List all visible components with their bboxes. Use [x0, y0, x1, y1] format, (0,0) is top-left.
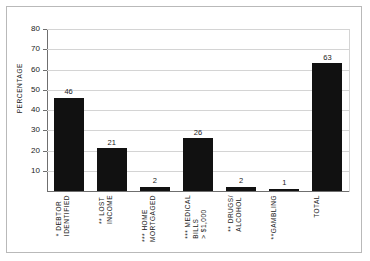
x-axis-category-label: ** DRUGS/ ALCOHOL [227, 195, 243, 232]
y-tick-label: 70 [31, 45, 40, 53]
bar[interactable]: 46 [54, 98, 84, 191]
bar-value-label: 1 [282, 179, 286, 187]
x-axis-line [47, 191, 350, 192]
x-axis-category-label: * DEBTOR IDENTIFIED [55, 195, 71, 236]
y-tick-label: 50 [31, 86, 40, 94]
chart-frame: PERCENTAGE 8070605040302010 46212262163 … [6, 6, 362, 253]
y-tick-label: 10 [31, 167, 40, 175]
bar-value-label: 2 [239, 177, 243, 185]
bar[interactable]: 2 [140, 187, 170, 191]
bar-value-label: 46 [64, 88, 72, 96]
gridline [47, 29, 349, 30]
y-tick-mark [43, 29, 47, 30]
y-tick-label: 60 [31, 66, 40, 74]
plot-area: 8070605040302010 46212262163 [47, 29, 349, 191]
gridline [47, 90, 349, 91]
x-axis-category-label: *** MEDICAL BILLS > $1,000 [184, 195, 208, 239]
y-axis-title: PERCENTAGE [16, 63, 23, 113]
y-tick-mark [43, 171, 47, 172]
bar-value-label: 2 [153, 177, 157, 185]
x-axis-category-label: **GAMBLING [270, 195, 278, 239]
bar[interactable]: 1 [269, 189, 299, 191]
y-tick-mark [43, 70, 47, 71]
y-tick-label: 80 [31, 25, 40, 33]
bar[interactable]: 26 [183, 138, 213, 191]
y-tick-label: 40 [31, 106, 40, 114]
y-tick-mark [43, 49, 47, 50]
y-tick-label: 30 [31, 126, 40, 134]
bar[interactable]: 21 [97, 148, 127, 191]
y-tick-mark [43, 151, 47, 152]
bar-value-label: 21 [108, 139, 116, 147]
y-tick-label: 20 [31, 147, 40, 155]
gridline [47, 110, 349, 111]
bar-value-label: 26 [194, 129, 202, 137]
gridline [47, 49, 349, 50]
gridline [47, 70, 349, 71]
plot-right-edge [349, 29, 350, 192]
x-axis-category-label: TOTAL [313, 195, 321, 218]
x-axis-category-label: *** HOME MORTGAGED [141, 195, 157, 242]
x-axis-category-label: ** LOST INCOME [98, 195, 114, 224]
bar-value-label: 63 [323, 54, 331, 62]
y-tick-mark [43, 130, 47, 131]
y-tick-mark [43, 110, 47, 111]
y-tick-mark [43, 90, 47, 91]
bar[interactable]: 63 [312, 63, 342, 191]
bar[interactable]: 2 [226, 187, 256, 191]
